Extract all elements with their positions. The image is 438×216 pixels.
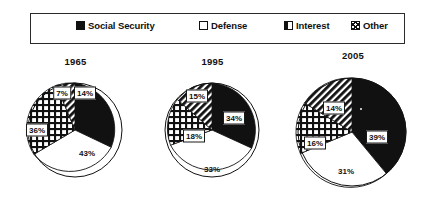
slice-label-defense: 43% (79, 148, 95, 159)
slice-label-social-security: 39% (366, 131, 388, 144)
pie-chart-1995: 1995 34% 33% 15% 18% (155, 56, 270, 206)
legend-label: Interest (296, 21, 330, 31)
slice-label-defense: 33% (204, 164, 220, 175)
slice-label-defense: 31% (338, 166, 354, 177)
legend-item-other: Other (351, 21, 388, 31)
slice-label-interest: 14% (323, 102, 345, 115)
pie-graphic: 34% 33% 15% 18% (155, 74, 270, 190)
chart-title: 1965 (18, 56, 133, 67)
legend-item-interest: Interest (284, 21, 330, 31)
legend-item-defense: Defense (199, 21, 247, 31)
solid-black-square-icon (76, 21, 85, 30)
crosshatch-square-icon (351, 21, 360, 30)
legend-item-social-security: Social Security (76, 21, 155, 31)
slice-label-interest: 15% (186, 90, 208, 103)
legend-label: Social Security (88, 21, 155, 31)
chart-speck (360, 108, 362, 110)
slice-label-other: 36% (26, 124, 48, 137)
slice-label-social-security: 34% (223, 112, 245, 125)
slice-label-other: 16% (304, 137, 326, 150)
empty-square-icon (199, 21, 208, 30)
slice-label-social-security: 14% (74, 87, 96, 100)
chart-title: 1995 (155, 56, 270, 67)
pie-chart-1965: 1965 14% 43% 7% 36% (18, 56, 133, 206)
pie-graphic: 14% 43% 7% 36% (18, 74, 133, 190)
chart-title: 2005 (288, 50, 418, 61)
half-filled-square-icon (284, 21, 293, 30)
pie-chart-2005: 2005 39% 31% 14% 16% (288, 50, 418, 210)
slice-label-other: 18% (183, 130, 205, 143)
legend: Social Security Defense Interest Other (30, 13, 405, 44)
slice-label-interest: 7% (53, 87, 71, 100)
legend-label: Defense (211, 21, 247, 31)
legend-label: Other (363, 21, 388, 31)
pie-graphic: 39% 31% 14% 16% (288, 68, 418, 200)
